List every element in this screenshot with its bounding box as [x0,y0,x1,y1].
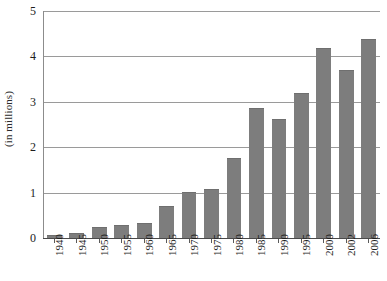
bar-slot [245,11,267,238]
y-axis-tick-label: 4 [30,50,36,62]
x-axis-tick-label: 1990 [279,234,290,256]
x-axis-tick-label: 1975 [212,234,223,256]
x-axis-tick-label: 1980 [234,234,245,256]
x-axis-tick-label: 2002 [346,234,357,256]
x-axis-label-slot: 1980 [223,243,245,281]
bar-slot [268,11,290,238]
x-axis-tick-label: 1945 [77,234,88,256]
bar-slot [133,11,155,238]
bar-slot [290,11,312,238]
bar[interactable] [182,192,197,238]
x-axis-label-slot: 1955 [110,243,132,281]
x-axis-tick-label: 2000 [324,234,335,256]
x-axis-tick-label: 1965 [167,234,178,256]
y-axis-tick-label: 1 [30,187,36,199]
y-axis-tick-label: 0 [30,232,36,244]
bar-slot [200,11,222,238]
x-axis-label-slot: 1975 [200,243,222,281]
x-axis-tick-labels: 1940194519501955196019651970197519801985… [43,243,380,281]
x-axis-label-slot: 1945 [65,243,87,281]
y-axis-tick-label: 2 [30,141,36,153]
y-axis-title-label: (in millions) [2,91,14,147]
x-axis-tick-label: 1955 [122,234,133,256]
bar-slot [155,11,177,238]
bars-layer [43,11,380,238]
bar[interactable] [227,158,242,238]
x-axis-tick-label: 1960 [144,234,155,256]
x-axis-tick-label: 1950 [99,234,110,256]
bar-slot [358,11,380,238]
bar[interactable] [272,119,287,238]
bar-slot [313,11,335,238]
x-axis-tick-label: 1995 [301,234,312,256]
x-axis-tick-label: 1940 [54,234,65,256]
bar-slot [43,11,65,238]
x-axis-label-slot: 1960 [133,243,155,281]
x-axis-label-slot: 1995 [290,243,312,281]
y-axis-tick-label: 5 [30,5,36,17]
bar[interactable] [294,93,309,238]
y-axis-tick-labels: 012345 [16,0,40,250]
y-axis-title: (in millions) [0,0,16,238]
x-axis-label-slot: 2000 [313,243,335,281]
x-axis-tick-label: 2006 [369,234,380,256]
x-axis-tick-label: 1970 [189,234,200,256]
x-axis-label-slot: 1950 [88,243,110,281]
x-axis-label-slot: 1940 [43,243,65,281]
x-axis-label-slot: 1990 [268,243,290,281]
bar-slot [223,11,245,238]
bar-slot [88,11,110,238]
bar[interactable] [249,108,264,238]
bar-slot [178,11,200,238]
bar-chart: (in millions) 012345 1940194519501955196… [0,0,387,281]
x-axis-label-slot: 1985 [245,243,267,281]
bar[interactable] [361,39,376,238]
bar-slot [110,11,132,238]
y-axis-tick-label: 3 [30,96,36,108]
bar-slot [65,11,87,238]
bar-slot [335,11,357,238]
bar[interactable] [316,48,331,238]
x-axis-label-slot: 1965 [155,243,177,281]
x-axis-label-slot: 2002 [335,243,357,281]
x-axis-label-slot: 2006 [358,243,380,281]
x-axis-tick-label: 1985 [256,234,267,256]
bar[interactable] [339,70,354,238]
x-axis-label-slot: 1970 [178,243,200,281]
bar[interactable] [204,189,219,238]
